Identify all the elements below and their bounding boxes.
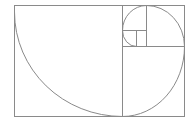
golden-spiral-curve [15,6,185,117]
outer-rectangle [15,6,185,117]
golden-spiral-diagram [0,0,194,123]
